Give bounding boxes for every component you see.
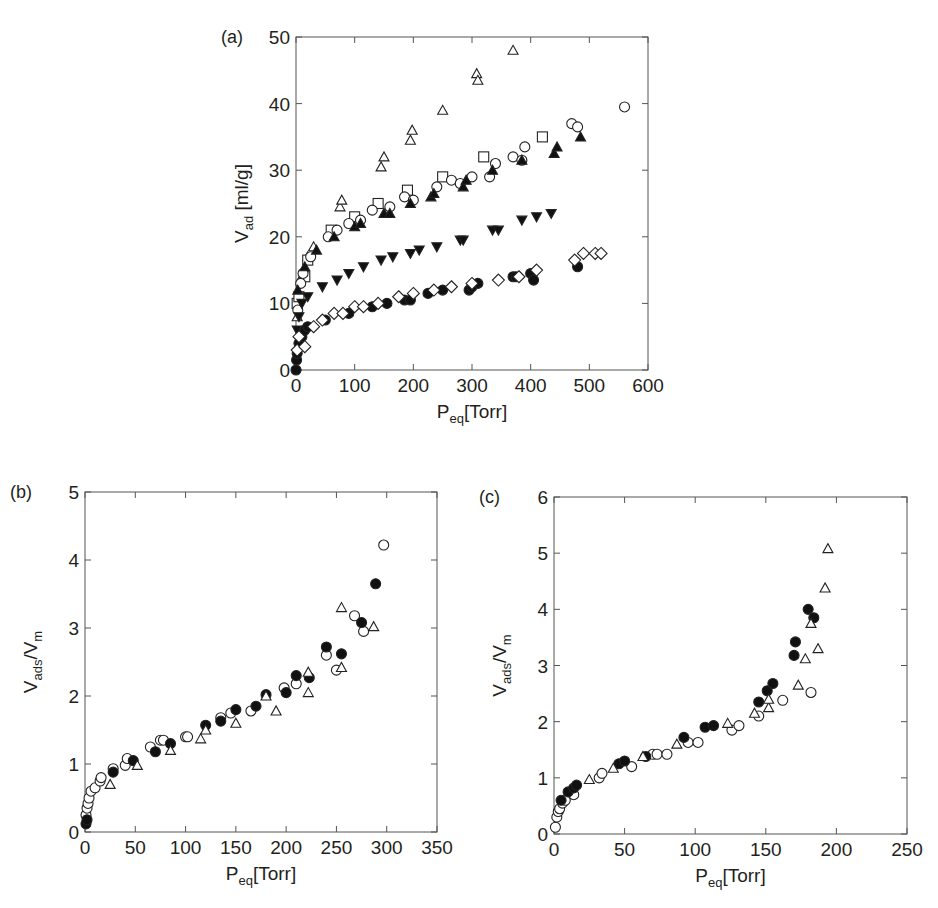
y-tick-label: 0 (279, 360, 290, 381)
data-point-triangle-open (407, 125, 417, 134)
y-tick-label: 30 (269, 160, 290, 181)
x-tick-label: 100 (339, 375, 371, 396)
data-point-triangle-open (303, 667, 313, 676)
data-point-triangle-down-filled (358, 263, 368, 272)
data-point-circle-filled (790, 637, 800, 647)
y-tick-label: 2 (537, 712, 548, 733)
data-point-circle-filled (768, 678, 778, 688)
data-point-circle-filled (709, 721, 719, 731)
x-tick-label: 0 (291, 375, 302, 396)
y-tick-label: 6 (537, 487, 548, 508)
data-point-circle-filled (754, 697, 764, 707)
data-point-circle-filled (281, 688, 291, 698)
data-point-square-open (479, 152, 489, 162)
data-point-circle-open (734, 721, 744, 731)
data-point-circle-filled (216, 716, 226, 726)
data-point-triangle-down-filled (376, 256, 386, 265)
data-point-circle-open (520, 142, 530, 152)
x-tick-label: 250 (321, 837, 353, 858)
x-axis-label: Peq[Torr] (437, 401, 507, 426)
plot-frame (554, 497, 907, 834)
data-point-circle-open (652, 749, 662, 759)
data-point-triangle-open (105, 779, 115, 788)
y-tick-label: 10 (269, 293, 290, 314)
x-tick-label: 0 (80, 837, 91, 858)
x-tick-label: 0 (549, 839, 560, 860)
y-tick-label: 0 (537, 824, 548, 845)
y-tick-label: 1 (68, 754, 79, 775)
y-tick-label: 5 (537, 543, 548, 564)
y-axis-label: Vads/Vm (489, 634, 514, 696)
data-point-circle-filled (357, 618, 367, 628)
data-point-circle-filled (556, 795, 566, 805)
panel-label: (a) (221, 27, 243, 47)
data-point-circle-filled (291, 365, 301, 375)
x-axis-label: Peq[Torr] (695, 865, 765, 890)
data-point-circle-open (96, 773, 106, 783)
data-point-triangle-open (800, 654, 810, 663)
y-axis-label: Vads/Vm (20, 631, 45, 693)
data-point-triangle-open (336, 603, 346, 612)
y-tick-label: 0 (68, 822, 79, 843)
data-point-circle-filled (251, 701, 261, 711)
y-tick-label: 50 (269, 27, 290, 48)
data-point-triangle-open (813, 644, 823, 653)
data-point-circle-filled (679, 732, 689, 742)
x-tick-label: 500 (573, 375, 605, 396)
y-tick-label: 2 (68, 686, 79, 707)
data-point-diamond-open (577, 247, 589, 259)
data-point-diamond-open (357, 301, 369, 313)
data-point-triangle-open (405, 135, 415, 144)
series-open-circle (81, 540, 389, 820)
data-point-circle-filled (291, 671, 301, 681)
data-point-triangle-down-filled (432, 243, 442, 252)
data-point-triangle-open (823, 544, 833, 553)
x-tick-label: 400 (515, 375, 547, 396)
data-point-circle-open (379, 540, 389, 550)
series-open-triangle (584, 544, 833, 784)
data-point-circle-open (662, 749, 672, 759)
x-tick-label: 200 (397, 375, 429, 396)
data-point-triangle-down-filled (344, 269, 354, 278)
data-point-circle-open (597, 768, 607, 778)
data-point-circle-filled (529, 275, 539, 285)
data-point-triangle-open (369, 622, 379, 631)
data-point-triangle-down-filled (317, 283, 327, 292)
data-point-triangle-open (723, 718, 733, 727)
data-point-circle-filled (572, 780, 582, 790)
x-tick-label: 350 (421, 837, 453, 858)
y-tick-label: 5 (68, 482, 79, 503)
data-point-triangle-down-filled (332, 276, 342, 285)
series-open-diamond (291, 247, 607, 356)
x-tick-label: 300 (456, 375, 488, 396)
panel-label: (b) (10, 482, 32, 502)
data-point-triangle-down-filled (414, 246, 424, 255)
x-tick-label: 50 (614, 839, 635, 860)
y-tick-label: 20 (269, 227, 290, 248)
data-point-triangle-open (793, 680, 803, 689)
data-point-circle-filled (108, 767, 118, 777)
series-open-triangle (292, 45, 518, 320)
panel-b-scatter-plot: 050100150200250300350012345(b)Peq[Torr]V… (10, 482, 453, 888)
data-point-circle-open (573, 122, 583, 132)
series-filled-circle (81, 579, 381, 829)
y-tick-label: 4 (537, 599, 548, 620)
data-point-triangle-open (303, 688, 313, 697)
data-point-circle-filled (321, 642, 331, 652)
figure: 010020030040050060001020304050(a)Peq[Tor… (0, 0, 938, 908)
data-point-triangle-down-filled (546, 209, 556, 218)
data-point-triangle-down-filled (517, 216, 527, 225)
x-tick-label: 150 (750, 839, 782, 860)
data-point-triangle-down-filled (532, 213, 542, 222)
data-point-circle-filled (82, 815, 92, 825)
data-point-circle-open (367, 205, 377, 215)
x-tick-label: 250 (891, 839, 923, 860)
data-point-circle-open (183, 732, 193, 742)
data-point-diamond-open (492, 274, 504, 286)
data-point-triangle-open (376, 162, 386, 171)
plot-frame (296, 37, 648, 370)
data-point-triangle-open (231, 718, 241, 727)
data-point-circle-open (806, 687, 816, 697)
data-point-circle-open (550, 822, 560, 832)
data-point-circle-filled (336, 649, 346, 659)
